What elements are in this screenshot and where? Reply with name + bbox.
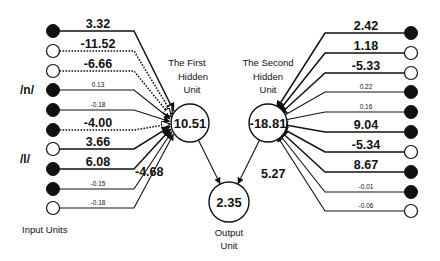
hidden-to-output-connections bbox=[198, 140, 259, 184]
input-unit-active bbox=[47, 84, 60, 97]
input-weight-label: -0.18 bbox=[91, 199, 106, 206]
input-unit-active bbox=[405, 126, 418, 139]
input-unit-inactive bbox=[47, 143, 60, 156]
input-connection bbox=[277, 33, 405, 109]
input-unit-inactive bbox=[405, 67, 418, 80]
input-weight-label: 0.16 bbox=[360, 103, 373, 110]
input-connection bbox=[60, 110, 170, 121]
input-unit-active bbox=[47, 163, 60, 176]
right-weight-labels: 2.421.18-5.330.220.169.04-5.348.67-0.01-… bbox=[352, 19, 381, 209]
input-connection bbox=[279, 73, 405, 115]
hidden2-output-weight: 5.27 bbox=[261, 167, 285, 181]
neural-network-diagram: 10.51 The First Hidden Unit -18.81 The S… bbox=[0, 0, 440, 261]
input-unit-active bbox=[47, 124, 60, 137]
input-weight-label: -0.06 bbox=[359, 202, 374, 209]
input-weight-label: 9.04 bbox=[354, 118, 378, 132]
input-weight-label: -6.66 bbox=[84, 57, 113, 71]
caption-line: The First bbox=[168, 57, 206, 68]
input-unit-active bbox=[405, 27, 418, 40]
first-hidden-unit: 10.51 bbox=[171, 104, 209, 142]
output-unit: 2.35 bbox=[209, 182, 249, 222]
caption-line: The Second bbox=[242, 57, 293, 68]
phoneme-label-l: /l/ bbox=[20, 152, 31, 166]
phoneme-label-n: /n/ bbox=[20, 83, 35, 97]
input-connection bbox=[60, 71, 171, 116]
input-connection bbox=[280, 124, 405, 132]
input-weight-label: -0.01 bbox=[359, 183, 374, 190]
input-unit-inactive bbox=[405, 205, 418, 218]
input-weight-label: -4.00 bbox=[84, 116, 113, 130]
hidden-to-output-arrow bbox=[198, 140, 220, 184]
caption-line: Unit bbox=[221, 240, 238, 251]
input-weight-label: 6.08 bbox=[86, 155, 110, 169]
right-input-connections bbox=[277, 33, 405, 211]
second-hidden-unit: -18.81 bbox=[249, 104, 287, 142]
input-unit-active bbox=[405, 186, 418, 199]
input-unit-active bbox=[405, 166, 418, 179]
input-connection bbox=[60, 51, 172, 114]
input-unit-active bbox=[47, 25, 60, 38]
input-weight-label: 3.32 bbox=[86, 17, 110, 31]
input-unit-active bbox=[47, 104, 60, 117]
input-weight-label: -0.15 bbox=[91, 180, 106, 187]
input-weight-label: 8.67 bbox=[354, 158, 378, 172]
first-hidden-unit-value: 10.51 bbox=[174, 116, 207, 131]
input-connection bbox=[278, 53, 404, 112]
caption-line: Output bbox=[215, 227, 244, 238]
input-connection bbox=[60, 124, 170, 130]
input-weight-label: 3.66 bbox=[86, 135, 110, 149]
input-unit-inactive bbox=[47, 202, 60, 215]
left-input-connections bbox=[60, 31, 174, 208]
input-connection bbox=[60, 132, 172, 189]
input-connection bbox=[278, 133, 404, 192]
right-input-units bbox=[405, 27, 418, 218]
second-hidden-unit-caption: The Second Hidden Unit bbox=[242, 57, 293, 95]
left-weight-labels: 3.32-11.52-6.660.13-0.18-4.003.666.08-0.… bbox=[81, 17, 116, 206]
input-weight-label: 1.18 bbox=[354, 39, 378, 53]
input-unit-active bbox=[47, 183, 60, 196]
input-connection bbox=[277, 136, 404, 211]
second-hidden-unit-value: -18.81 bbox=[250, 116, 287, 131]
input-unit-active bbox=[405, 106, 418, 119]
input-weight-label: 0.22 bbox=[360, 83, 373, 90]
hidden1-output-weight: -4.68 bbox=[135, 165, 164, 179]
first-hidden-unit-caption: The First Hidden Unit bbox=[168, 57, 208, 95]
input-weight-label: -5.34 bbox=[352, 138, 381, 152]
caption-line: Unit bbox=[184, 84, 201, 95]
input-weight-label: -0.18 bbox=[91, 101, 106, 108]
hidden-to-output-arrow bbox=[238, 140, 260, 184]
input-weight-label: -11.52 bbox=[81, 37, 116, 51]
input-connection bbox=[60, 90, 170, 119]
input-unit-inactive bbox=[405, 146, 418, 159]
output-unit-caption: Output Unit bbox=[215, 227, 244, 251]
input-unit-inactive bbox=[47, 45, 60, 58]
input-weight-label: 0.13 bbox=[92, 81, 105, 88]
input-connection bbox=[280, 92, 405, 118]
caption-line: Hidden bbox=[178, 71, 208, 82]
caption-line: Unit bbox=[260, 84, 277, 95]
output-unit-value: 2.35 bbox=[216, 195, 241, 210]
left-input-units bbox=[47, 25, 60, 215]
input-connection bbox=[280, 112, 405, 121]
input-weight-label: 2.42 bbox=[354, 19, 378, 33]
input-unit-inactive bbox=[405, 47, 418, 60]
input-unit-active bbox=[405, 86, 418, 99]
input-units-label: Input Units bbox=[22, 224, 68, 235]
caption-line: Hidden bbox=[253, 71, 283, 82]
input-unit-inactive bbox=[47, 65, 60, 78]
input-weight-label: -5.33 bbox=[352, 59, 381, 73]
